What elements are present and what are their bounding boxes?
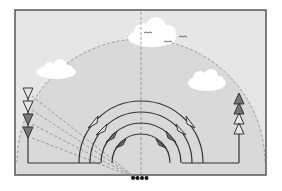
diagram-canvas (0, 0, 282, 191)
sound-propagation-diagram (0, 0, 282, 191)
source-dots (131, 176, 149, 180)
